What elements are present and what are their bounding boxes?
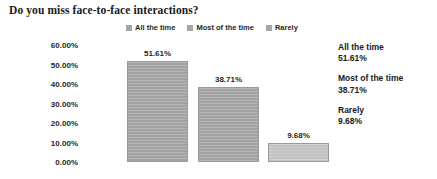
page-title: Do you miss face-to-face interactions? <box>9 4 199 16</box>
bar-group: 51.61% <box>127 61 188 162</box>
summary-item-value: 9.68% <box>338 116 433 127</box>
bar-chart: Do you miss face-to-face interactions? A… <box>0 0 437 179</box>
summary-item: Rarely9.68% <box>338 105 433 127</box>
bar-all-the-time[interactable] <box>127 61 188 162</box>
bar-value-label: 9.68% <box>287 131 310 140</box>
summary-item-name: Most of the time <box>338 73 433 84</box>
chart-legend: All the time Most of the time Rarely <box>126 24 298 32</box>
legend-label: Most of the time <box>196 24 254 32</box>
bar-value-label: 38.71% <box>215 75 242 84</box>
bars-layer: 51.61%38.71%9.68% <box>0 40 335 170</box>
legend-swatch-icon <box>187 25 193 31</box>
legend-label: Rarely <box>275 24 298 32</box>
summary-item-value: 51.61% <box>338 53 433 64</box>
summary-item-name: Rarely <box>338 105 433 116</box>
bar-group: 38.71% <box>198 87 259 162</box>
summary-item: Most of the time38.71% <box>338 73 433 95</box>
summary-item-value: 38.71% <box>338 85 433 96</box>
legend-label: All the time <box>135 24 175 32</box>
plot-area: 0.00%10.00%20.00%30.00%40.00%50.00%60.00… <box>0 40 335 170</box>
bar-value-label: 51.61% <box>144 49 171 58</box>
summary-item-name: All the time <box>338 42 433 53</box>
legend-swatch-icon <box>126 25 132 31</box>
legend-item-rarely: Rarely <box>266 24 298 32</box>
legend-item-most-of-the-time: Most of the time <box>187 24 254 32</box>
summary-item: All the time51.61% <box>338 42 433 64</box>
summary-panel: All the time51.61%Most of the time38.71%… <box>338 42 433 136</box>
bar-most-of-the-time[interactable] <box>198 87 259 162</box>
bar-rarely[interactable] <box>268 143 329 162</box>
bar-group: 9.68% <box>268 143 329 162</box>
legend-swatch-icon <box>266 25 272 31</box>
legend-item-all-the-time: All the time <box>126 24 175 32</box>
